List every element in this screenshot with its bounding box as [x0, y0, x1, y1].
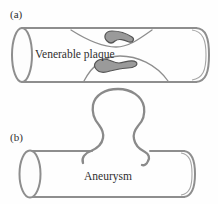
vessel-b-left-end-ellipse: [20, 151, 41, 198]
figure-canvas: (a) Venerable plaque (b): [0, 0, 218, 204]
panel-a: (a) Venerable plaque: [10, 8, 209, 82]
vessel-diagram-svg: (a) Venerable plaque (b): [0, 0, 218, 204]
aneurysm-balloon-outline: [82, 89, 149, 165]
panel-b-annotation: Aneurysm: [84, 170, 132, 183]
panel-b: (b) Aneurysm: [10, 89, 195, 198]
plaque-core-top: [105, 31, 133, 43]
vessel-a-right-cap-rim: [192, 30, 206, 80]
panel-b-label: (b): [10, 131, 23, 144]
vessel-b-right-cap-rim: [181, 153, 192, 195]
plaque-core-bottom: [95, 59, 137, 72]
panel-a-label: (a): [10, 8, 23, 21]
panel-a-annotation: Venerable plaque: [35, 48, 115, 61]
vessel-a-left-end-ellipse: [12, 28, 32, 82]
